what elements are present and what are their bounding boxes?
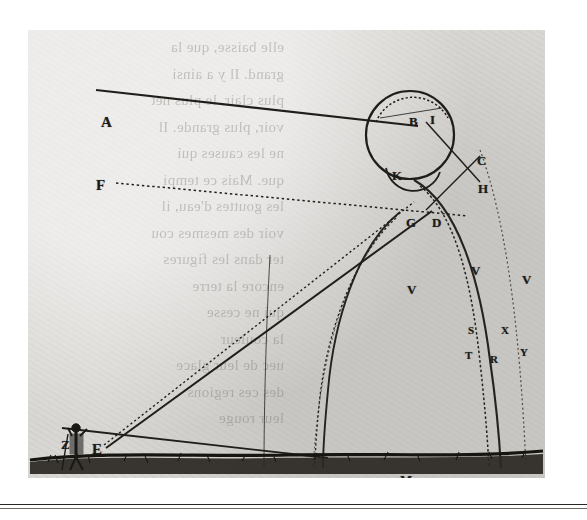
engraved-plate: elle baisse, que la grand. Il y a ainsi …: [28, 30, 545, 478]
page-rule-primary: [0, 504, 587, 505]
page-rule-secondary: [0, 508, 587, 509]
book-page: elle baisse, que la grand. Il y a ainsi …: [0, 0, 587, 520]
observer-head: [72, 424, 80, 432]
observer-cloak: [70, 434, 83, 454]
diagram-svg-container: [28, 30, 545, 478]
ground-strip: [30, 451, 543, 474]
